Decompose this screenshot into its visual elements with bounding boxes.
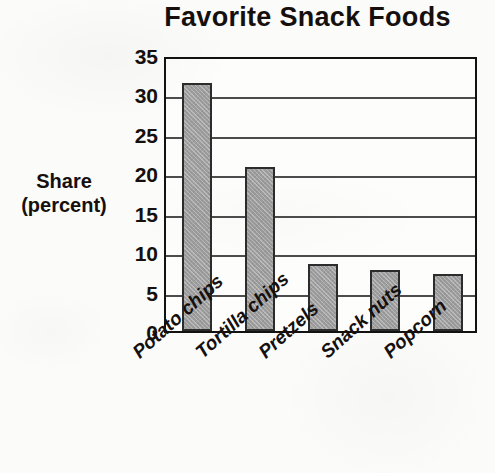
y-tick-label-25: 25 xyxy=(98,124,158,148)
y-tick-label-35: 35 xyxy=(98,45,158,69)
y-tick-label-15: 15 xyxy=(98,203,158,227)
y-tick-label-5: 5 xyxy=(98,282,158,306)
bar-chart-figure: Favorite Snack Foods Share (percent) 051… xyxy=(0,0,495,473)
chart-title: Favorite Snack Foods xyxy=(120,2,495,33)
y-tick-label-30: 30 xyxy=(98,84,158,108)
y-tick-label-10: 10 xyxy=(98,242,158,266)
y-tick-label-20: 20 xyxy=(98,163,158,187)
